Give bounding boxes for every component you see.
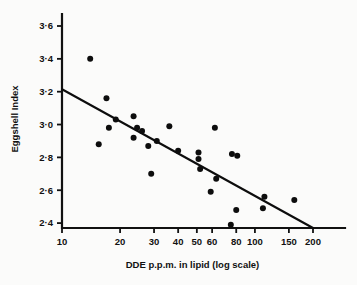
data-point	[154, 138, 160, 144]
x-tick-label-2: 30	[149, 236, 160, 247]
data-point	[228, 222, 234, 228]
data-point	[234, 153, 240, 159]
x-axis-title: DDE p.p.m. in lipid (log scale)	[126, 259, 260, 270]
y-tick-label-1: 3·4	[39, 53, 53, 64]
x-tick-label-8: 150	[281, 236, 297, 247]
scatter-plot: 3·63·43·23·02·82·62·41020304050608010015…	[0, 0, 357, 285]
chart-container: 3·63·43·23·02·82·62·41020304050608010015…	[0, 0, 357, 285]
data-point	[103, 95, 109, 101]
data-point	[106, 125, 112, 131]
data-point	[96, 141, 102, 147]
x-tick-label-4: 50	[192, 236, 203, 247]
x-tick-label-7: 100	[247, 236, 263, 247]
data-point	[175, 148, 181, 154]
data-point	[260, 205, 266, 211]
data-point	[145, 143, 151, 149]
trend-line	[62, 89, 313, 228]
axis-spine	[62, 14, 345, 228]
x-tick-label-6: 80	[231, 236, 242, 247]
x-tick-label-1: 20	[115, 236, 126, 247]
data-point	[139, 128, 145, 134]
x-tick-label-5: 60	[207, 236, 218, 247]
data-point	[131, 135, 137, 141]
data-point	[134, 125, 140, 131]
regression-line	[62, 89, 313, 228]
axes	[62, 14, 345, 228]
data-point	[131, 113, 137, 119]
data-point	[208, 189, 214, 195]
data-point	[233, 207, 239, 213]
y-tick-label-2: 3·2	[39, 86, 53, 97]
data-point	[196, 149, 202, 155]
x-tick-label-3: 40	[173, 236, 184, 247]
data-point	[229, 151, 235, 157]
y-tick-label-3: 3·0	[39, 119, 53, 130]
data-point	[148, 171, 154, 177]
y-tick-label-0: 3·6	[39, 20, 53, 31]
data-point	[261, 194, 267, 200]
tick-marks	[57, 26, 313, 233]
data-point	[113, 117, 119, 123]
data-point	[166, 123, 172, 129]
tick-labels: 3·63·43·23·02·82·62·41020304050608010015…	[39, 20, 321, 247]
data-point	[196, 156, 202, 162]
data-point	[87, 56, 93, 62]
y-tick-label-5: 2·6	[39, 185, 53, 196]
data-point	[213, 176, 219, 182]
data-point	[212, 125, 218, 131]
data-point	[291, 197, 297, 203]
y-tick-label-4: 2·8	[39, 152, 53, 163]
y-tick-label-6: 2·4	[39, 217, 53, 228]
x-tick-label-0: 10	[57, 236, 68, 247]
x-tick-label-9: 200	[305, 236, 321, 247]
y-axis-title: Eggshell Index	[9, 85, 20, 153]
data-point	[197, 166, 203, 172]
